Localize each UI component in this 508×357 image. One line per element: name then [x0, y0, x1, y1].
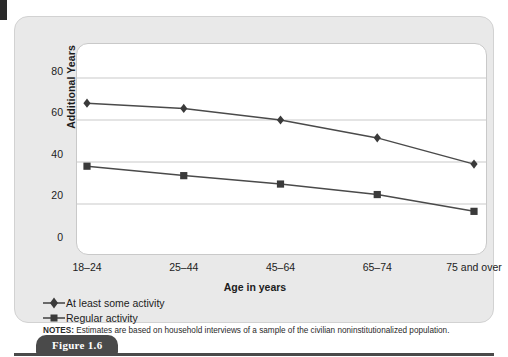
legend-label-series-1: Regular activity [66, 312, 138, 324]
series-markers [83, 99, 477, 215]
figure-panel: Additional Years 80 60 40 20 0 18–24 25–… [14, 16, 494, 323]
x-tick-label-2: 45–64 [246, 261, 316, 273]
notes-line: NOTES: Estimates are based on household … [43, 326, 483, 335]
square-marker-icon [43, 311, 65, 325]
x-tick-label-0: 18–24 [52, 261, 122, 273]
diamond-marker-icon [43, 296, 65, 310]
chart-legend: At least some activity Regular activity [43, 295, 343, 325]
page-edge-mark [0, 0, 7, 20]
legend-item-series-1: Regular activity [43, 310, 343, 325]
chart-plot-svg [15, 17, 495, 324]
figure-caption-tab: Figure 1.6 [36, 335, 118, 354]
x-tick-label-3: 65–74 [342, 261, 412, 273]
x-tick-label-4: 75 and over [446, 261, 502, 273]
figure-caption-bar: Figure 1.6 [14, 335, 494, 357]
legend-label-series-0: At least some activity [66, 297, 165, 309]
figure-caption-text: Figure 1.6 [52, 339, 102, 351]
notes-text: Estimates are based on household intervi… [74, 326, 450, 335]
legend-item-series-0: At least some activity [43, 295, 343, 310]
notes-label: NOTES: [43, 326, 74, 335]
x-axis-title: Age in years [15, 281, 495, 293]
x-tick-label-1: 25–44 [149, 261, 219, 273]
